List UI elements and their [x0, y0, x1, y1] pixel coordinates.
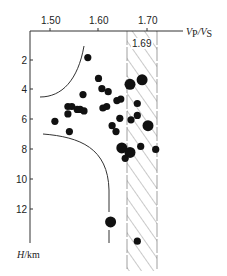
data-point	[137, 74, 148, 85]
data-point	[64, 110, 71, 117]
data-point	[127, 116, 134, 123]
y-tick-label: 12	[16, 204, 28, 215]
data-point	[95, 75, 102, 82]
x-tick-label: 1.50	[41, 15, 61, 26]
y-axis-title: H/km	[16, 249, 40, 260]
data-point	[84, 54, 91, 61]
data-point	[125, 79, 136, 90]
data-point	[79, 91, 86, 98]
data-point	[137, 143, 144, 150]
data-point	[134, 100, 141, 107]
y-tick-label: 4	[21, 84, 27, 95]
data-point	[117, 96, 124, 103]
x-tick-label: 1.60	[89, 15, 109, 26]
data-point	[105, 88, 112, 95]
data-point	[105, 216, 116, 227]
upper-boundary-curve	[40, 46, 84, 97]
x-axis-title: VP/VS	[186, 26, 212, 39]
data-point	[116, 115, 123, 122]
y-tick-label: 10	[16, 174, 28, 185]
data-point	[143, 120, 154, 131]
data-point	[98, 85, 105, 92]
data-point	[109, 122, 116, 129]
data-point	[51, 118, 58, 125]
data-point	[80, 107, 87, 114]
data-point	[66, 128, 73, 135]
y-tick-label: 8	[21, 144, 27, 155]
data-point	[134, 112, 141, 119]
data-point	[103, 103, 110, 110]
vp-vs-depth-scatter-chart: 1.69 1.50 1.60 1.70 VP/VS 2 4 6 8 10 12 …	[0, 0, 227, 276]
y-axis: 2 4 6 8 10 12 H/km	[16, 31, 40, 260]
data-point	[112, 128, 119, 135]
lower-boundary-curve	[43, 134, 109, 212]
y-tick-label: 6	[21, 114, 27, 125]
data-point	[122, 155, 129, 162]
data-point	[152, 146, 159, 153]
data-point	[134, 238, 141, 245]
band-value-label: 1.69	[132, 38, 152, 49]
x-axis: 1.50 1.60 1.70 VP/VS	[30, 15, 212, 39]
x-tick-label: 1.70	[138, 15, 158, 26]
y-tick-label: 2	[21, 55, 27, 66]
